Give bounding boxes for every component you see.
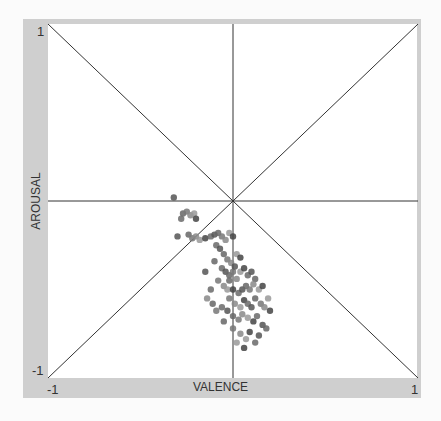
data-point: [265, 295, 271, 301]
data-point: [250, 281, 256, 287]
data-point: [252, 339, 258, 345]
data-point: [193, 216, 199, 222]
data-point: [178, 216, 184, 222]
data-point: [263, 325, 269, 331]
data-point: [241, 265, 247, 271]
grid-lines: [48, 24, 418, 378]
data-point: [226, 295, 232, 301]
data-point: [237, 254, 243, 260]
data-point: [252, 295, 258, 301]
data-point: [202, 235, 208, 241]
data-point: [210, 301, 216, 307]
data-point: [208, 286, 214, 292]
scatter-plot: [0, 0, 441, 421]
data-point: [248, 269, 254, 275]
data-point: [254, 313, 260, 319]
data-point: [235, 316, 241, 322]
data-point: [171, 194, 177, 200]
data-point: [234, 276, 240, 282]
data-point: [230, 233, 236, 239]
y-axis-label: AROUSAL: [29, 172, 43, 229]
data-point: [247, 329, 253, 335]
data-point: [237, 304, 243, 310]
data-point: [239, 311, 245, 317]
data-point: [174, 233, 180, 239]
data-point: [213, 308, 219, 314]
data-point: [226, 277, 232, 283]
data-point: [221, 318, 227, 324]
data-point: [245, 315, 251, 321]
data-point: [256, 332, 262, 338]
data-point: [230, 286, 236, 292]
data-point: [248, 304, 254, 310]
data-point: [217, 246, 223, 252]
data-point: [215, 277, 221, 283]
data-point: [204, 295, 210, 301]
data-point: [261, 304, 267, 310]
data-point: [197, 237, 203, 243]
data-point: [211, 258, 217, 264]
data-point: [237, 331, 243, 337]
data-point: [247, 286, 253, 292]
x-axis-label: VALENCE: [0, 380, 441, 394]
data-point: [222, 237, 228, 243]
data-points: [171, 194, 274, 351]
y-max-tick: 1: [37, 24, 44, 39]
y-min-tick: -1: [32, 363, 44, 378]
data-point: [230, 325, 236, 331]
data-point: [259, 283, 265, 289]
data-point: [232, 301, 238, 307]
data-point: [241, 345, 247, 351]
data-point: [267, 308, 273, 314]
data-point: [202, 269, 208, 275]
data-point: [219, 304, 225, 310]
data-point: [230, 313, 236, 319]
data-point: [232, 263, 238, 269]
data-point: [221, 251, 227, 257]
data-point: [234, 339, 240, 345]
data-point: [250, 318, 256, 324]
data-point: [243, 336, 249, 342]
data-point: [224, 286, 230, 292]
data-point: [224, 308, 230, 314]
